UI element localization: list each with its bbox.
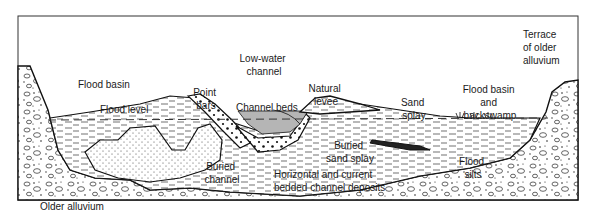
label-channel-beds: Channel beds [236, 102, 298, 113]
label-terrace: Terrace of older alluvium [523, 29, 560, 66]
floodplain-cross-section: Low-water channel Terrace of older alluv… [0, 0, 594, 222]
label-flood-level: Flood level [100, 104, 148, 115]
label-flood-basin: Flood basin [78, 79, 130, 90]
label-older-alluvium: Older alluvium [40, 201, 104, 212]
